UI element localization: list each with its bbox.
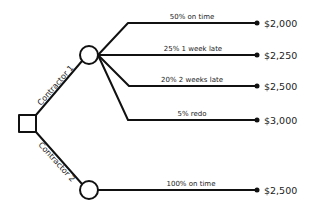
end-dot-1 (255, 21, 260, 26)
end-dot-2 (255, 53, 260, 58)
outcome-label-1: 50% on time (170, 13, 215, 21)
outcome-value-2: $2,250 (264, 50, 297, 61)
chance-node-contractor-1 (80, 46, 98, 64)
outcome-value-1: $2,000 (264, 18, 297, 29)
outcome-value-4: $3,000 (264, 115, 297, 126)
decision-node-square (19, 115, 36, 132)
outcome-label-3: 20% 2 weeks late (161, 76, 223, 84)
end-dot-3 (255, 84, 260, 89)
end-dot-5 (255, 188, 260, 193)
branch-label-contractor-2: Contractor 2 (37, 140, 77, 183)
end-dot-4 (255, 118, 260, 123)
outcome-label-2: 25% 1 week late (164, 45, 222, 53)
branch-label-contractor-1: Contractor 1 (36, 63, 76, 107)
outcome-label-4: 5% redo (177, 110, 206, 118)
decision-tree-diagram: Contractor 1 Contractor 2 50% on time 25… (0, 0, 313, 211)
outcome-value-5: $2,500 (264, 185, 297, 196)
outcome-label-5: 100% on time (167, 180, 216, 188)
outcome-value-3: $2,500 (264, 81, 297, 92)
chance-node-contractor-2 (80, 181, 98, 199)
